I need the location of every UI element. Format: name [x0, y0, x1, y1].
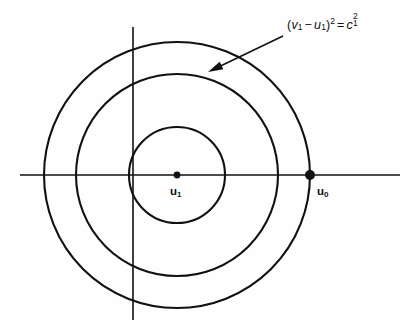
formula-annotation: (v1−u1)2=c21 [287, 16, 358, 32]
center-label-subscript: 1 [177, 190, 181, 199]
center-point-label: u1 [170, 186, 181, 199]
outer-label-symbol: u [317, 185, 324, 197]
center-dot [174, 172, 181, 179]
outer-label-subscript: 0 [324, 190, 328, 199]
outer-point-label: u0 [317, 186, 328, 199]
annotation-arrow-head [208, 62, 223, 72]
formula-minus: − [305, 18, 313, 32]
formula-v-subscript: 1 [298, 22, 303, 32]
formula-c-subscript: 1 [353, 19, 358, 28]
center-label-symbol: u [170, 185, 177, 197]
figure-container: (v1−u1)2=c21 u1 u0 [0, 0, 413, 332]
formula-equals: = [337, 18, 345, 32]
formula-power: 2 [330, 16, 335, 26]
formula-c-indices: 21 [353, 16, 358, 29]
diagram-canvas [0, 0, 413, 332]
outer-point-dot [305, 170, 315, 180]
